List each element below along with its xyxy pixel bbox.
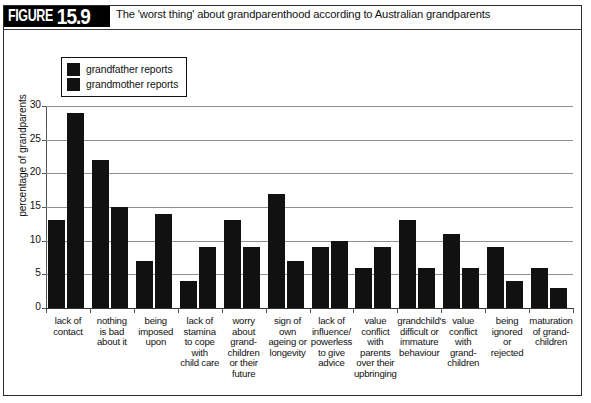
- x-tick-mark: [134, 308, 135, 313]
- x-tick-mark: [353, 308, 354, 313]
- legend-item-grandmother: grandmother reports: [67, 77, 178, 92]
- bar-grandfather: [180, 281, 197, 308]
- x-category-line: lack of: [178, 316, 222, 327]
- bar-grandfather: [312, 247, 329, 308]
- bar-group: [222, 106, 266, 308]
- legend-item-grandfather: grandfather reports: [67, 62, 178, 77]
- x-category-line: future: [222, 369, 266, 380]
- y-tick-label: 0: [17, 301, 41, 312]
- legend-label-grandfather: grandfather reports: [86, 64, 172, 75]
- bar-grandfather: [92, 160, 109, 308]
- bar-group: [178, 106, 222, 308]
- bar-grandfather: [48, 220, 65, 308]
- legend-swatch-grandfather: [67, 63, 80, 76]
- x-category-line: upon: [134, 337, 178, 348]
- x-tick-mark: [178, 308, 179, 313]
- bar-series-layer: [46, 106, 573, 308]
- bar-grandmother: [418, 268, 435, 308]
- bar-grandmother: [550, 288, 567, 308]
- bar-group: [46, 106, 90, 308]
- bar-grandfather: [224, 220, 241, 308]
- bar-grandfather: [531, 268, 548, 308]
- x-category-label: grandchild'sdifficult orimmaturebehaviou…: [397, 316, 441, 358]
- figure-tag-word: FIGURE: [8, 9, 53, 25]
- x-category-line: nothing: [90, 316, 134, 327]
- bar-group: [485, 106, 529, 308]
- bar-grandmother: [67, 113, 84, 308]
- x-category-label: beingimposedupon: [134, 316, 178, 348]
- bar-grandmother: [243, 247, 260, 308]
- bar-grandmother: [331, 241, 348, 308]
- chart-plot-area: percentage of grandparents 051015202530 …: [4, 30, 581, 395]
- x-category-label: beingignoredorrejected: [485, 316, 529, 358]
- x-category-line: contact: [46, 327, 90, 338]
- bar-grandmother: [199, 247, 216, 308]
- bar-group: [529, 106, 573, 308]
- y-tick-label: 20: [17, 166, 41, 177]
- y-tick-label: 5: [17, 267, 41, 278]
- x-category-label: worryaboutgrand-childrenor theirfuture: [222, 316, 266, 380]
- x-category-line: grandchild's: [397, 316, 441, 327]
- bar-grandfather: [268, 194, 285, 308]
- y-tick-label: 15: [17, 200, 41, 211]
- bar-group: [90, 106, 134, 308]
- bar-grandfather: [443, 234, 460, 308]
- x-tick-mark: [397, 308, 398, 313]
- bar-grandfather: [487, 247, 504, 308]
- bar-group: [134, 106, 178, 308]
- figure-number-tag: FIGURE 15.9: [4, 6, 110, 27]
- y-tick-label: 30: [17, 99, 41, 110]
- x-category-label: valueconflictwithparentsover theirupbrin…: [353, 316, 397, 380]
- bar-group: [397, 106, 441, 308]
- x-category-line: behaviour: [397, 348, 441, 359]
- x-category-label: sign ofownageing orlongevity: [266, 316, 310, 358]
- x-category-line: children: [529, 337, 573, 348]
- figure-container: FIGURE 15.9 The 'worst thing' about gran…: [3, 5, 582, 396]
- x-tick-mark: [310, 308, 311, 313]
- x-category-line: value: [353, 316, 397, 327]
- x-category-line: sign of: [266, 316, 310, 327]
- figure-caption: The 'worst thing' about grandparenthood …: [116, 8, 490, 20]
- bar-grandfather: [355, 268, 372, 308]
- x-category-label: nothingis badabout it: [90, 316, 134, 348]
- bar-grandfather: [399, 220, 416, 308]
- x-category-line: about it: [90, 337, 134, 348]
- x-tick-mark: [222, 308, 223, 313]
- x-category-line: rejected: [485, 348, 529, 359]
- x-category-line: children: [441, 358, 485, 369]
- x-category-line: being: [134, 316, 178, 327]
- x-category-line: lack of: [46, 316, 90, 327]
- y-tick-label: 25: [17, 133, 41, 144]
- bar-grandmother: [155, 214, 172, 308]
- x-category-line: advice: [310, 358, 354, 369]
- y-tick-label: 10: [17, 234, 41, 245]
- bar-group: [266, 106, 310, 308]
- x-category-label: lack ofstaminato copewithchild care: [178, 316, 222, 369]
- chart-axes: 051015202530 lack ofcontactnothingis bad…: [46, 106, 573, 308]
- x-tick-mark: [266, 308, 267, 313]
- bar-grandmother: [506, 281, 523, 308]
- x-category-line: worry: [222, 316, 266, 327]
- x-tick-mark: [46, 308, 47, 313]
- bar-group: [310, 106, 354, 308]
- x-category-line: upbringing: [353, 369, 397, 380]
- x-category-line: lack of: [310, 316, 354, 327]
- x-category-line: child care: [178, 358, 222, 369]
- bar-group: [353, 106, 397, 308]
- bar-grandmother: [462, 268, 479, 308]
- x-tick-mark: [485, 308, 486, 313]
- y-axis-label: percentage of grandparents: [17, 61, 28, 251]
- bar-grandfather: [136, 261, 153, 308]
- chart-legend: grandfather reports grandmother reports: [61, 57, 187, 97]
- x-tick-mark: [573, 308, 574, 313]
- x-category-line: longevity: [266, 348, 310, 359]
- x-category-line: maturation: [529, 316, 573, 327]
- x-category-label: maturationof grand-children: [529, 316, 573, 348]
- x-tick-mark: [529, 308, 530, 313]
- figure-header: FIGURE 15.9 The 'worst thing' about gran…: [4, 6, 581, 27]
- x-tick-mark: [90, 308, 91, 313]
- legend-label-grandmother: grandmother reports: [86, 79, 178, 90]
- bar-grandmother: [287, 261, 304, 308]
- legend-swatch-grandmother: [67, 78, 80, 91]
- x-category-label: valueconflictwithgrand-children: [441, 316, 485, 369]
